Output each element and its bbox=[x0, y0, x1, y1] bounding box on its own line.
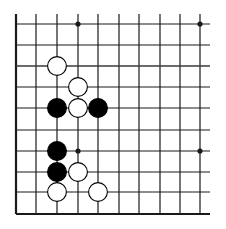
black-stone[interactable] bbox=[48, 163, 67, 182]
board-grid bbox=[16, 14, 210, 214]
black-stone[interactable] bbox=[48, 142, 67, 161]
white-stone[interactable] bbox=[48, 57, 67, 76]
black-stone[interactable] bbox=[48, 99, 67, 118]
star-point-icon bbox=[197, 21, 202, 26]
white-stone[interactable] bbox=[69, 78, 88, 97]
go-board[interactable] bbox=[0, 0, 226, 229]
white-stone[interactable] bbox=[69, 99, 88, 118]
star-point-icon bbox=[75, 148, 80, 153]
white-stone[interactable] bbox=[48, 183, 67, 202]
white-stone[interactable] bbox=[89, 183, 108, 202]
white-stone[interactable] bbox=[69, 163, 88, 182]
star-point-icon bbox=[197, 148, 202, 153]
black-stone[interactable] bbox=[89, 99, 108, 118]
star-point-icon bbox=[75, 21, 80, 26]
